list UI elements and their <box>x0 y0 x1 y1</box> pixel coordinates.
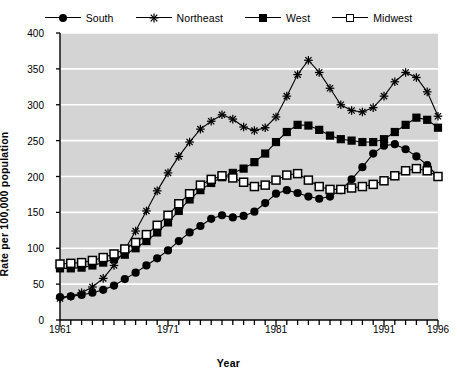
y-axis-tick-label: 400 <box>14 28 44 39</box>
data-point-open-square <box>121 245 129 253</box>
filled-square-marker-icon <box>259 14 267 22</box>
data-point-filled-square <box>261 149 269 157</box>
data-point-asterisk <box>293 70 302 79</box>
data-point-filled-square <box>402 121 410 129</box>
y-axis-tick-label: 350 <box>14 63 44 74</box>
x-axis-label: Year <box>0 357 457 369</box>
data-point-asterisk <box>142 207 151 216</box>
data-point-open-square <box>218 172 226 180</box>
data-point-filled-circle <box>369 149 377 157</box>
data-point-filled-square <box>358 138 366 146</box>
chart-legend: South Northeast West Mi <box>0 7 457 29</box>
legend-line-south <box>45 13 81 23</box>
data-point-asterisk <box>153 187 162 196</box>
data-point-open-square <box>380 177 388 185</box>
data-point-open-square <box>56 260 64 268</box>
data-point-asterisk <box>131 227 140 236</box>
data-point-filled-circle <box>164 246 172 254</box>
legend-item-west: West <box>245 12 310 24</box>
x-axis-tick-label: 1991 <box>373 324 395 335</box>
data-point-open-square <box>207 175 215 183</box>
legend-label-south: South <box>86 12 114 24</box>
data-point-asterisk <box>67 292 76 301</box>
legend-item-northeast: Northeast <box>136 12 223 24</box>
data-point-open-square <box>326 185 334 193</box>
data-point-filled-square <box>294 121 302 129</box>
data-point-open-square <box>261 181 269 189</box>
data-point-open-square <box>142 231 150 239</box>
data-point-filled-circle <box>153 254 161 262</box>
y-axis-tick-label: 50 <box>14 279 44 290</box>
x-axis-tick-label: 1971 <box>157 324 179 335</box>
data-point-asterisk <box>412 73 421 82</box>
data-point-asterisk <box>77 288 86 297</box>
asterisk-marker-icon <box>148 13 159 24</box>
data-point-asterisk <box>272 113 281 122</box>
y-axis-tick-label: 250 <box>14 135 44 146</box>
data-point-asterisk <box>218 110 227 119</box>
data-point-filled-circle <box>402 145 410 153</box>
legend-item-south: South <box>45 12 114 24</box>
data-point-open-square <box>110 250 118 258</box>
data-point-filled-circle <box>304 192 312 200</box>
data-point-asterisk <box>207 117 216 126</box>
data-point-filled-circle <box>121 275 129 283</box>
data-point-open-square <box>175 200 183 208</box>
data-point-filled-circle <box>218 211 226 219</box>
data-point-asterisk <box>304 56 313 65</box>
data-point-open-square <box>164 211 172 219</box>
data-point-asterisk <box>315 68 324 77</box>
data-point-open-square <box>423 167 431 175</box>
data-point-filled-square <box>315 126 323 134</box>
legend-line-west <box>245 13 281 23</box>
data-point-open-square <box>196 181 204 189</box>
data-point-open-square <box>369 180 377 188</box>
filled-circle-marker-icon <box>59 14 67 22</box>
data-point-open-square <box>67 259 75 267</box>
data-point-open-square <box>412 165 420 173</box>
x-axis-tick-label: 1996 <box>427 324 449 335</box>
data-point-filled-square <box>250 158 258 166</box>
data-point-filled-circle <box>412 152 420 160</box>
data-point-filled-circle <box>391 140 399 148</box>
data-point-filled-circle <box>175 237 183 245</box>
data-point-asterisk <box>401 68 410 77</box>
data-point-asterisk <box>175 152 184 161</box>
legend-label-midwest: Midwest <box>373 12 412 24</box>
legend-item-midwest: Midwest <box>332 12 412 24</box>
data-point-open-square <box>153 221 161 229</box>
x-axis-tick-label: 1981 <box>265 324 287 335</box>
y-axis-label: Rate per 100,000 population <box>0 132 10 277</box>
data-point-asterisk <box>391 77 400 86</box>
y-axis-tick-label: 100 <box>14 243 44 254</box>
data-point-filled-square <box>283 128 291 136</box>
data-point-asterisk <box>88 283 97 292</box>
data-point-filled-square <box>412 114 420 122</box>
data-point-open-square <box>186 190 194 198</box>
data-point-filled-circle <box>207 215 215 223</box>
plot-area: Rate per 100,000 population Year 4003503… <box>0 28 457 379</box>
y-axis-tick-label: 200 <box>14 171 44 182</box>
data-point-asterisk <box>56 294 65 303</box>
data-point-open-square <box>99 254 107 262</box>
data-point-open-square <box>132 239 140 247</box>
legend-label-northeast: Northeast <box>177 12 223 24</box>
data-point-filled-square <box>369 138 377 146</box>
data-point-asterisk <box>369 103 378 112</box>
data-point-filled-circle <box>358 163 366 171</box>
legend-line-northeast <box>136 13 172 23</box>
data-point-filled-circle <box>110 281 118 289</box>
data-point-asterisk <box>229 115 238 124</box>
data-point-open-square <box>294 170 302 178</box>
data-point-filled-square <box>272 138 280 146</box>
data-point-open-square <box>304 176 312 184</box>
data-point-filled-circle <box>261 199 269 207</box>
data-point-asterisk <box>423 88 432 97</box>
data-point-asterisk <box>347 106 356 115</box>
data-point-filled-circle <box>196 222 204 230</box>
data-point-asterisk <box>185 138 194 147</box>
data-point-filled-square <box>423 116 431 124</box>
data-point-asterisk <box>380 92 389 101</box>
y-axis-tick-label: 300 <box>14 99 44 110</box>
data-point-filled-square <box>304 121 312 129</box>
